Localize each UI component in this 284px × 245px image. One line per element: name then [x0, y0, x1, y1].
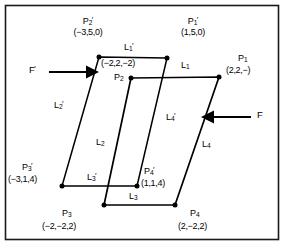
label-L4-index: 4: [207, 142, 210, 149]
label-P1-prime: P1′: [168, 16, 218, 27]
label-P1-prime-prime: ′: [197, 15, 198, 24]
label-P3-prime-coord: (−3,1,4): [8, 175, 37, 185]
label-F-name: F: [257, 109, 263, 120]
vertex-P3: [102, 203, 107, 208]
label-L1-index: 1: [186, 63, 189, 70]
label-P2-prime-prime: ′: [92, 15, 93, 24]
label-L4: L4: [202, 140, 210, 150]
vertex-P1-prime: [165, 56, 170, 61]
label-F-prime-prime: ′: [34, 64, 35, 73]
figure-container: P2′ (−3,5,0) P1′ (1,5,0) L1′ (−2,2,−2) P…: [0, 0, 284, 245]
vertex-P4-prime: [135, 184, 140, 189]
label-L1: L1: [181, 61, 189, 71]
label-L3-prime: L3′: [87, 172, 96, 183]
vertex-P4: [173, 203, 178, 208]
label-P4: P4: [190, 209, 199, 219]
label-P3-prime-prime: ′: [31, 161, 32, 170]
label-F-prime: F′: [29, 65, 36, 75]
label-P3-prime: P3′: [22, 162, 32, 173]
label-P4-coord: (2,−2,2): [178, 222, 207, 232]
label-P2: P2: [114, 73, 123, 83]
label-P1: P1: [238, 54, 247, 64]
label-P1-prime-coord: (1,5,0): [165, 28, 221, 38]
label-L1-prime: L1′: [124, 42, 133, 53]
label-P2-prime: P2′: [58, 16, 118, 27]
label-P4-prime-prime: ′: [153, 165, 154, 174]
label-P1-coord: (2,2,−): [226, 66, 250, 76]
label-P1-index: 1: [244, 56, 247, 63]
vertex-P1: [217, 75, 222, 80]
label-L3-index: 3: [134, 194, 137, 201]
label-L3-prime-prime: ′: [95, 171, 96, 180]
label-P3: P3: [62, 209, 71, 219]
label-P2-coord: (−2,2,−2): [101, 59, 135, 69]
label-P2-prime-coord: (−3,5,0): [55, 28, 121, 38]
label-L4-prime: L4′: [166, 112, 175, 123]
vertex-P3-prime: [60, 184, 65, 189]
label-L3: L3: [129, 192, 137, 202]
label-L1-prime-prime: ′: [132, 41, 133, 50]
label-P2-index: 2: [120, 75, 123, 82]
force-prime-arrow-head: [86, 66, 99, 79]
label-L2-index: 2: [101, 140, 104, 147]
vertex-P2: [129, 76, 134, 81]
label-F: F: [257, 110, 263, 120]
label-L4-prime-prime: ′: [174, 111, 175, 120]
label-L2-prime: L2′: [54, 100, 63, 111]
label-P3-index: 3: [68, 211, 71, 218]
label-P4-prime-coord: (1,1,4): [141, 179, 165, 189]
label-P3-coord: (−2,−2,2): [42, 222, 76, 232]
label-P4-index: 4: [196, 211, 199, 218]
label-L2-prime-prime: ′: [62, 99, 63, 108]
label-P4-prime: P4′: [144, 166, 154, 177]
figure-canvas: [0, 0, 284, 245]
label-L2: L2: [96, 138, 104, 148]
